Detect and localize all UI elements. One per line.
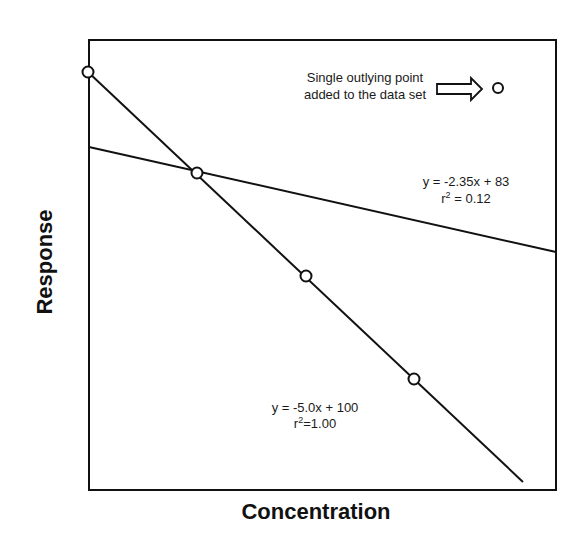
data-point <box>409 374 420 385</box>
chart: Single outlying point added to the data … <box>0 0 587 543</box>
outlier-point <box>493 83 503 93</box>
fit2-equation: y = -2.35x + 83 <box>423 174 510 189</box>
y-axis-label: Response <box>32 209 57 314</box>
outlier-note-line2: added to the data set <box>304 87 427 102</box>
arrow-right-icon <box>437 78 482 100</box>
fit1-equation: y = -5.0x + 100 <box>272 400 359 415</box>
x-axis-label: Concentration <box>241 499 390 524</box>
fit1-r2: r2=1.00 <box>294 415 336 431</box>
fit2-r2: r2 = 0.12 <box>441 190 490 206</box>
data-point <box>301 271 312 282</box>
data-point <box>192 168 203 179</box>
outlier-note-line1: Single outlying point <box>307 70 424 85</box>
data-point <box>83 67 94 78</box>
